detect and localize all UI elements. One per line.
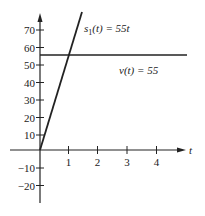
svg-text:−10: −10: [18, 162, 36, 174]
v-label: v(t) = 55: [119, 64, 159, 77]
x-axis-arrow-icon: [177, 148, 186, 153]
y-axis-arrow-icon: [38, 13, 43, 22]
svg-text:70: 70: [24, 24, 36, 36]
x-tick-labels: 1 2 3 4: [66, 156, 160, 168]
series-s1-line: [40, 12, 82, 150]
svg-text:1: 1: [66, 156, 72, 168]
x-axis-label: t: [189, 144, 193, 156]
svg-text:40: 40: [24, 77, 36, 89]
svg-text:10: 10: [24, 129, 36, 141]
svg-text:2: 2: [95, 156, 101, 168]
y-tick-labels: 70 60 50 40 30 20 10 −10 −20: [18, 24, 36, 192]
svg-text:30: 30: [24, 94, 36, 106]
svg-text:4: 4: [154, 156, 160, 168]
svg-text:3: 3: [124, 156, 130, 168]
svg-text:60: 60: [24, 42, 36, 54]
svg-text:50: 50: [24, 59, 36, 71]
svg-text:20: 20: [24, 112, 36, 124]
chart: t 70 60 50 40 30 20 10 −10 −20 1 2 3 4: [0, 0, 205, 216]
s1-label: s1(t) = 55t: [84, 22, 131, 37]
svg-text:−20: −20: [18, 180, 36, 192]
